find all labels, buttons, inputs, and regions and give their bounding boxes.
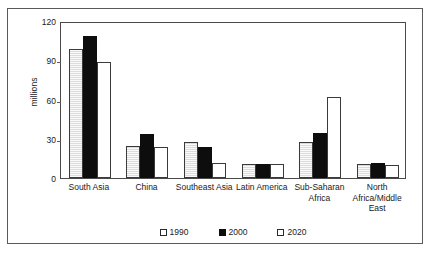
legend-item-2020[interactable]: 2020 [277,228,306,237]
bar-group-bars [119,23,177,178]
bar-group [61,23,119,178]
legend-swatch-icon [219,229,226,236]
bar-group-bars [292,23,350,178]
y-axis-tick-mark [57,62,61,63]
legend-swatch-icon [160,229,167,236]
bar-2020-north-africa-middle-east [385,165,399,178]
x-axis-label: Latin America [233,182,291,193]
bar-2020-latin-america [270,164,284,178]
x-axis-label: North Africa/Middle East [348,182,406,214]
y-axis-tick-label: 120 [26,18,56,27]
x-axis-label: Sub-Saharan Africa [291,182,349,203]
bar-1990-sub-saharan-africa [299,142,313,178]
bar-2000-north-africa-middle-east [371,163,385,179]
y-axis-tick-label: 60 [26,96,56,105]
bar-2000-sub-saharan-africa [313,133,327,178]
y-axis-tick-mark [57,102,61,103]
bar-group-bars [234,23,292,178]
bar-group [234,23,292,178]
legend-swatch-icon [277,229,284,236]
bar-2000-southeast-asia [198,147,212,178]
plot-area [60,22,406,179]
legend-item-2000[interactable]: 2000 [219,228,248,237]
bar-2000-china [140,134,154,178]
y-axis-tick-label: 90 [26,57,56,66]
x-axis-label: South Asia [60,182,118,193]
x-axis-label: China [118,182,176,193]
plot-inner [61,23,405,178]
bar-2020-china [154,147,168,178]
bar-2020-southeast-asia [212,163,226,179]
bar-1990-north-africa-middle-east [357,164,371,178]
chart-legend: 199020002020 [60,228,406,237]
bar-1990-southeast-asia [184,142,198,178]
bar-1990-latin-america [242,164,256,178]
bar-group [176,23,234,178]
legend-label: 1990 [170,228,189,237]
bar-group [119,23,177,178]
y-axis-tick-labels: 0306090120 [26,9,56,245]
bar-2000-latin-america [256,164,270,178]
bar-group-bars [349,23,407,178]
bar-group-bars [176,23,234,178]
bar-group [349,23,407,178]
bar-group-bars [61,23,119,178]
legend-label: 2020 [287,228,306,237]
legend-label: 2000 [229,228,248,237]
bar-2000-south-asia [83,36,97,178]
bar-2020-sub-saharan-africa [327,97,341,178]
legend-item-1990[interactable]: 1990 [160,228,189,237]
bar-1990-china [126,146,140,178]
bar-2020-south-asia [97,62,111,178]
y-axis-tick-mark [57,141,61,142]
x-axis-label: Southeast Asia [175,182,233,193]
y-axis-tick-label: 0 [26,175,56,184]
bar-group [292,23,350,178]
y-axis-tick-label: 30 [26,136,56,145]
chart-figure-frame: millions 0306090120 South AsiaChinaSouth… [7,8,423,244]
bar-1990-south-asia [69,49,83,178]
x-axis-category-labels: South AsiaChinaSoutheast AsiaLatin Ameri… [60,182,406,224]
